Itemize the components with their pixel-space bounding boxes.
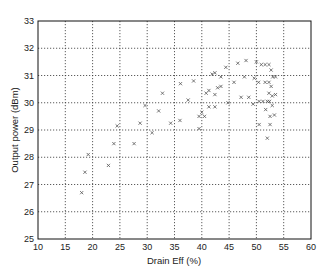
x-marker-icon [151,131,154,134]
x-tick-label: 40 [197,242,207,252]
y-tick-label: 27 [24,180,34,190]
x-marker-icon [143,104,146,107]
x-tick-label: 50 [251,242,261,252]
x-marker-icon [187,98,190,101]
x-marker-icon [169,122,172,125]
x-marker-icon [243,75,246,78]
x-marker-icon [267,63,270,66]
x-marker-icon [219,85,222,88]
x-marker-icon [197,115,200,118]
x-marker-icon [132,142,135,145]
x-marker-icon [232,81,235,84]
x-marker-icon [236,62,239,65]
y-tick-label: 25 [24,234,34,244]
x-tick-label: 35 [169,242,179,252]
x-marker-icon [274,93,277,96]
x-axis-ticks: 1015202530354045505560 [33,242,316,252]
x-marker-icon [271,104,274,107]
x-marker-icon [224,66,227,69]
y-axis-ticks: 252627282930313233 [24,16,34,244]
x-marker-icon [267,81,270,84]
x-marker-icon [264,63,267,66]
x-marker-icon [207,89,210,92]
x-marker-icon [270,68,273,71]
x-marker-icon [207,105,210,108]
x-tick-label: 55 [279,242,289,252]
x-marker-icon [112,142,115,145]
x-marker-icon [258,123,261,126]
x-marker-icon [270,85,273,88]
y-tick-label: 28 [24,152,34,162]
x-marker-icon [267,92,270,95]
x-tick-label: 20 [88,242,98,252]
x-marker-icon [203,115,206,118]
y-tick-label: 32 [24,43,34,53]
x-marker-icon [244,59,247,62]
x-marker-icon [260,63,263,66]
grid-lines [38,21,311,239]
x-marker-icon [264,108,267,111]
x-marker-icon [178,119,181,122]
x-marker-icon [197,127,200,130]
y-tick-label: 33 [24,16,34,26]
x-marker-icon [216,86,219,89]
x-marker-icon [247,96,250,99]
x-marker-icon [192,79,195,82]
y-tick-label: 29 [24,125,34,135]
y-tick-label: 26 [24,207,34,217]
x-marker-icon [219,75,222,78]
x-marker-icon [179,82,182,85]
x-marker-icon [253,77,256,80]
x-marker-icon [273,113,276,116]
x-marker-icon [266,137,269,140]
x-tick-label: 25 [115,242,125,252]
x-marker-icon [80,191,83,194]
scatter-chart: 1015202530354045505560 25262728293031323… [0,0,327,271]
x-marker-icon [83,171,86,174]
y-tick-label: 31 [24,71,34,81]
x-tick-label: 30 [142,242,152,252]
x-marker-icon [161,92,164,95]
x-marker-icon [258,100,261,103]
x-marker-icon [240,96,243,99]
x-marker-icon [157,109,160,112]
x-marker-icon [271,94,274,97]
y-axis-label: Output power (dBm) [9,87,20,173]
x-marker-icon [261,100,264,103]
x-tick-label: 15 [60,242,70,252]
x-marker-icon [116,124,119,127]
x-marker-icon [139,122,142,125]
x-tick-label: 45 [224,242,234,252]
x-marker-icon [213,93,216,96]
x-marker-icon [264,81,267,84]
x-marker-icon [268,115,271,118]
data-points [80,59,277,194]
y-tick-label: 30 [24,98,34,108]
x-marker-icon [213,105,216,108]
x-marker-icon [268,123,271,126]
x-marker-icon [205,92,208,95]
x-tick-label: 10 [33,242,43,252]
x-marker-icon [107,164,110,167]
x-marker-icon [87,153,90,156]
x-marker-icon [257,81,260,84]
x-axis-label: Drain Eff (%) [147,255,201,266]
x-tick-label: 60 [306,242,316,252]
x-marker-icon [252,103,255,106]
